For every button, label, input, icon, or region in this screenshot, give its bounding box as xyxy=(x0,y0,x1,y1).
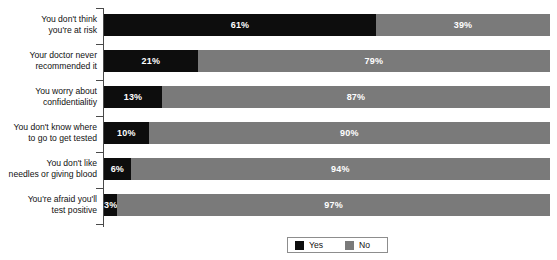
bar-value-label: 90% xyxy=(340,128,359,138)
bar-segment-yes[interactable]: 21% xyxy=(104,50,198,72)
legend-item-no[interactable]: No xyxy=(345,238,370,252)
category-label: Your doctor never recommended it xyxy=(0,50,97,70)
stacked-bar[interactable]: 13%87% xyxy=(104,86,550,108)
bar-value-label: 87% xyxy=(347,92,366,102)
bar-segment-yes[interactable]: 3% xyxy=(104,194,117,216)
stacked-bar[interactable]: 3%97% xyxy=(104,194,550,216)
bar-segment-yes[interactable]: 61% xyxy=(104,14,376,36)
bar-value-label: 79% xyxy=(365,56,384,66)
category-label: You're afraid you'll test positive xyxy=(0,194,97,214)
bar-value-label: 10% xyxy=(117,128,136,138)
bar-segment-yes[interactable]: 6% xyxy=(104,158,131,180)
bar-segment-no[interactable]: 87% xyxy=(162,86,550,108)
legend-label-no: No xyxy=(359,240,370,250)
category-label: You don't know where to go to get tested xyxy=(0,122,97,142)
axis-tick xyxy=(96,188,103,189)
bar-segment-no[interactable]: 79% xyxy=(198,50,550,72)
chart-row: You don't like needles or giving blood6%… xyxy=(0,158,557,194)
axis-tick xyxy=(96,8,103,9)
axis-tick xyxy=(96,44,103,45)
stacked-bar[interactable]: 21%79% xyxy=(104,50,550,72)
chart-row: You don't know where to go to get tested… xyxy=(0,122,557,158)
axis-tick xyxy=(96,224,103,225)
axis-tick xyxy=(96,116,103,117)
chart-title xyxy=(0,0,557,3)
plot-area: You don't think you're at risk61%39%Your… xyxy=(0,8,557,232)
bar-value-label: 94% xyxy=(331,164,350,174)
stacked-bar[interactable]: 6%94% xyxy=(104,158,550,180)
bar-segment-no[interactable]: 90% xyxy=(149,122,550,144)
chart-legend: Yes No xyxy=(287,237,388,253)
bar-value-label: 6% xyxy=(111,164,124,174)
stacked-bar[interactable]: 10%90% xyxy=(104,122,550,144)
bar-segment-no[interactable]: 97% xyxy=(117,194,550,216)
legend-label-yes: Yes xyxy=(309,240,323,250)
bar-value-label: 97% xyxy=(324,200,343,210)
legend-swatch-yes-icon xyxy=(295,241,304,250)
bar-value-label: 39% xyxy=(454,20,473,30)
bar-segment-yes[interactable]: 10% xyxy=(104,122,149,144)
bar-segment-no[interactable]: 94% xyxy=(131,158,550,180)
axis-tick xyxy=(96,80,103,81)
chart-row: You don't think you're at risk61%39% xyxy=(0,14,557,50)
bar-value-label: 61% xyxy=(231,20,250,30)
chart-row: You're afraid you'll test positive3%97% xyxy=(0,194,557,230)
category-label: You worry about confidentialitiy xyxy=(0,86,97,106)
category-label: You don't like needles or giving blood xyxy=(0,158,97,178)
category-label: You don't think you're at risk xyxy=(0,14,97,34)
bar-value-label: 13% xyxy=(124,92,143,102)
legend-swatch-no-icon xyxy=(345,241,354,250)
axis-tick xyxy=(96,152,103,153)
chart-row: Your doctor never recommended it21%79% xyxy=(0,50,557,86)
bar-segment-no[interactable]: 39% xyxy=(376,14,550,36)
legend-item-yes[interactable]: Yes xyxy=(295,238,323,252)
bar-segment-yes[interactable]: 13% xyxy=(104,86,162,108)
bar-value-label: 3% xyxy=(104,200,117,210)
chart-row: You worry about confidentialitiy13%87% xyxy=(0,86,557,122)
stacked-bar[interactable]: 61%39% xyxy=(104,14,550,36)
bar-value-label: 21% xyxy=(142,56,161,66)
